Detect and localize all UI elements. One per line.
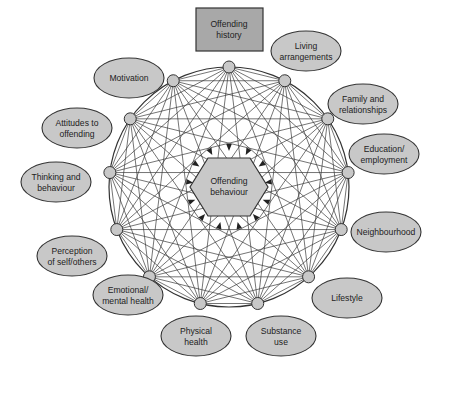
label-living-arrangements: arrangements [279, 52, 332, 62]
label-substance-use: use [274, 337, 288, 347]
label-offending-history: history [216, 30, 242, 40]
label-neighbourhood: Neighbourhood [357, 227, 416, 237]
node-education-employment [342, 167, 354, 179]
node-physical-health [194, 298, 206, 310]
label-emotional-mental-health: mental health [102, 296, 154, 306]
node-neighbourhood [335, 224, 347, 236]
label-offending-history: Offending [210, 19, 247, 29]
label-attitudes-offending: offending [59, 129, 94, 139]
label-substance-use: Substance [261, 326, 302, 336]
label-thinking-behaviour: behaviour [37, 183, 75, 193]
node-family-relationships [322, 113, 334, 125]
label-thinking-behaviour: Thinking and [31, 172, 80, 182]
node-motivation [167, 75, 179, 87]
label-perception-self-others: of self/others [47, 257, 96, 267]
label-family-relationships: relationships [339, 105, 387, 115]
label-education-employment: employment [361, 155, 408, 165]
label-physical-health: health [184, 337, 208, 347]
label-physical-health: Physical [180, 326, 212, 336]
label-emotional-mental-health: Emotional/ [108, 285, 149, 295]
node-lifestyle [303, 271, 315, 283]
label-perception-self-others: Perception [51, 246, 92, 256]
label-education-employment: Education/ [364, 144, 405, 154]
label-lifestyle: Lifestyle [331, 293, 363, 303]
label-family-relationships: Family and [342, 94, 384, 104]
center-label-1: Offending [210, 176, 247, 186]
node-offending-history [223, 61, 235, 73]
label-attitudes-offending: Attitudes to [56, 118, 99, 128]
node-perception-self-others [111, 224, 123, 236]
node-living-arrangements [279, 75, 291, 87]
offending-factors-diagram: Offending behaviour OffendinghistoryLivi… [0, 0, 456, 399]
center-label-2: behaviour [210, 187, 248, 197]
node-attitudes-offending [124, 113, 136, 125]
node-substance-use [252, 298, 264, 310]
label-motivation: Motivation [109, 73, 148, 83]
node-thinking-behaviour [104, 167, 116, 179]
label-living-arrangements: Living [295, 41, 318, 51]
